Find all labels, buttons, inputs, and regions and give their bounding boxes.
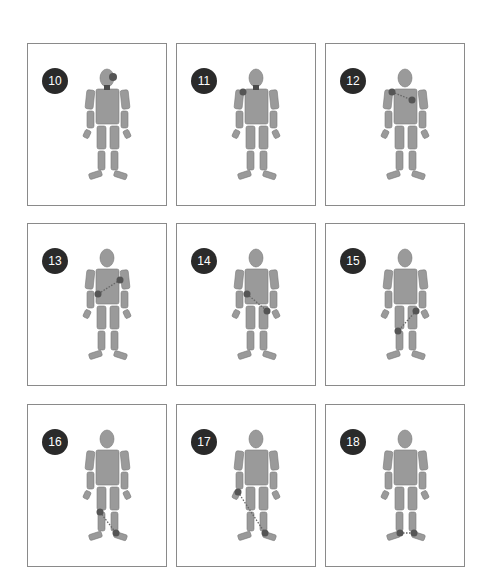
step-panel-11: 11 <box>176 43 316 206</box>
right-upper-arm <box>269 90 279 110</box>
right-foot <box>411 170 425 180</box>
left-forearm <box>236 291 243 308</box>
left-forearm <box>236 472 243 489</box>
right-forearm <box>121 291 128 308</box>
left-hand <box>83 129 92 139</box>
body-figure <box>326 405 466 568</box>
torso <box>96 89 119 124</box>
right-hand <box>421 490 430 500</box>
mannequin-body <box>381 69 430 180</box>
left-shin <box>396 151 403 170</box>
left-foot <box>237 531 251 541</box>
right-foot <box>411 350 425 360</box>
right-foot <box>262 170 276 180</box>
left-foot <box>88 531 102 541</box>
right-foot <box>113 350 127 360</box>
right-hand <box>421 309 430 319</box>
right-upper-arm <box>120 451 130 471</box>
left-foot <box>88 350 102 360</box>
torso <box>394 450 417 485</box>
right-thigh <box>110 306 119 329</box>
left-thigh <box>395 126 404 149</box>
right-shin <box>409 151 416 170</box>
left-hand <box>381 490 390 500</box>
mannequin-body <box>83 249 132 360</box>
head <box>100 249 114 267</box>
torso <box>245 89 268 124</box>
left-hand <box>381 129 390 139</box>
torso <box>96 450 119 485</box>
body-figure <box>177 405 317 568</box>
left-hand <box>232 129 241 139</box>
left-thigh <box>395 306 404 329</box>
left-upper-arm <box>383 270 393 290</box>
right-hand <box>272 129 281 139</box>
right-shin <box>409 512 416 531</box>
neck-marker <box>104 85 110 90</box>
left-forearm <box>385 472 392 489</box>
right-upper-arm <box>269 270 279 290</box>
right-hand <box>272 490 281 500</box>
mannequin-body <box>232 249 281 360</box>
left-upper-arm <box>383 451 393 471</box>
torso <box>394 269 417 304</box>
right-shin <box>111 151 118 170</box>
head <box>249 249 263 267</box>
right-shin <box>409 331 416 350</box>
right-hand <box>421 129 430 139</box>
step-panel-18: 18 <box>325 404 465 567</box>
head <box>249 430 263 448</box>
step-panel-14: 14 <box>176 223 316 386</box>
right-hand <box>123 129 132 139</box>
left-upper-arm <box>234 270 244 290</box>
left-shin <box>247 151 254 170</box>
right-shin <box>111 512 118 531</box>
right-thigh <box>408 126 417 149</box>
left-forearm <box>385 291 392 308</box>
right-shin <box>111 331 118 350</box>
mannequin-body <box>381 249 430 360</box>
left-forearm <box>385 111 392 128</box>
landmark-marker <box>397 530 404 537</box>
right-thigh <box>259 126 268 149</box>
left-thigh <box>97 487 106 510</box>
right-shin <box>260 331 267 350</box>
right-forearm <box>121 472 128 489</box>
measurement-overlay <box>397 530 418 537</box>
step-panel-13: 13 <box>27 223 167 386</box>
right-thigh <box>408 487 417 510</box>
torso <box>245 269 268 304</box>
left-thigh <box>97 126 106 149</box>
left-hand <box>381 309 390 319</box>
right-hand <box>123 309 132 319</box>
right-thigh <box>259 487 268 510</box>
right-hand <box>272 309 281 319</box>
step-panel-16: 16 <box>27 404 167 567</box>
head <box>398 249 412 267</box>
right-foot <box>113 170 127 180</box>
right-thigh <box>110 126 119 149</box>
body-figure <box>28 44 168 207</box>
right-upper-arm <box>418 270 428 290</box>
landmark-marker <box>262 530 269 537</box>
right-shin <box>260 151 267 170</box>
left-hand <box>83 309 92 319</box>
left-foot <box>237 170 251 180</box>
right-forearm <box>121 111 128 128</box>
neck-marker <box>253 85 259 90</box>
left-shin <box>396 512 403 531</box>
landmark-marker <box>413 308 420 315</box>
step-panel-17: 17 <box>176 404 316 567</box>
landmark-marker <box>409 97 416 104</box>
right-upper-arm <box>120 90 130 110</box>
right-forearm <box>270 472 277 489</box>
right-upper-arm <box>418 451 428 471</box>
left-forearm <box>236 111 243 128</box>
left-foot <box>386 350 400 360</box>
landmark-marker <box>113 530 120 537</box>
left-forearm <box>87 111 94 128</box>
right-forearm <box>419 472 426 489</box>
mannequin-body <box>83 430 132 541</box>
body-figure <box>326 44 466 207</box>
left-foot <box>386 170 400 180</box>
